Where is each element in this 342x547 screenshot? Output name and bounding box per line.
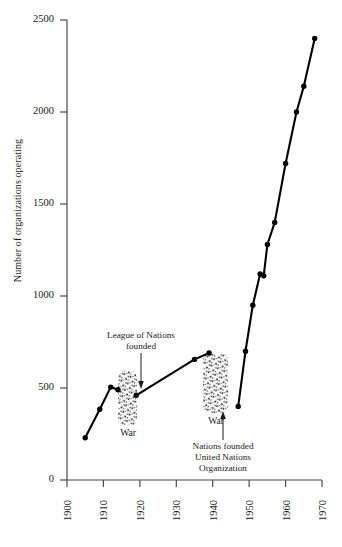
- league-of-nations-annotation-line2: founded: [80, 341, 202, 352]
- x-tick-label-1910: 1910: [98, 491, 109, 531]
- y-tick-label-2500: 2500: [8, 13, 54, 24]
- league-of-nations-annotation-line1: League of Nations: [80, 330, 202, 341]
- united-nations-annotation-line1: Nations founded: [163, 441, 283, 452]
- x-tick-label-1900: 1900: [62, 491, 73, 531]
- war-label-wwi: War: [108, 427, 148, 438]
- data-point-markers: [83, 36, 318, 441]
- y-tick-label-1500: 1500: [8, 197, 54, 208]
- x-tick-label-1920: 1920: [134, 491, 145, 531]
- y-axis-label: Number of organizations operating: [12, 111, 23, 311]
- y-tick-label-2000: 2000: [8, 105, 54, 116]
- y-axis-ticks: [60, 20, 67, 480]
- war-label-wwii: War: [196, 415, 236, 426]
- x-tick-label-1950: 1950: [244, 491, 255, 531]
- world-war-one-band: [118, 371, 137, 425]
- y-tick-label-1000: 1000: [8, 289, 54, 300]
- x-tick-label-1960: 1960: [280, 491, 291, 531]
- y-tick-label-0: 0: [8, 473, 54, 484]
- x-tick-label-1970: 1970: [317, 491, 328, 531]
- data-line-segment-interwar: [136, 353, 209, 395]
- y-tick-label-500: 500: [8, 381, 54, 392]
- x-tick-label-1940: 1940: [207, 491, 218, 531]
- world-war-two-band: [203, 354, 228, 413]
- chart-figure: Number of organizations operating 2500 2…: [0, 0, 342, 547]
- united-nations-annotation-line3: Organization: [163, 463, 283, 474]
- x-tick-label-1930: 1930: [171, 491, 182, 531]
- united-nations-annotation-line2: United Nations: [163, 452, 283, 463]
- league-of-nations-arrow: [138, 353, 144, 389]
- x-axis-ticks: [67, 480, 322, 487]
